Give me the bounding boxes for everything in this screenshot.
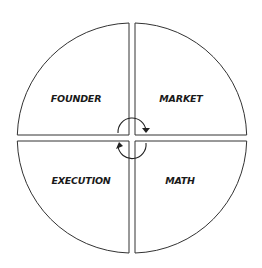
- quadrant-top-left: [17, 23, 129, 135]
- cycle-arrows-icon: [116, 118, 150, 159]
- quadrant-bottom-left: [17, 141, 129, 253]
- diagram-canvas: FOUNDER MARKET EXECUTION MATH: [0, 0, 262, 268]
- label-math: MATH: [165, 175, 195, 186]
- label-execution: EXECUTION: [51, 175, 110, 186]
- label-market: MARKET: [159, 93, 204, 104]
- quadrant-top-right: [135, 23, 247, 135]
- label-founder: FOUNDER: [51, 93, 102, 104]
- quadrant-diagram: FOUNDER MARKET EXECUTION MATH: [0, 0, 262, 268]
- quadrant-bottom-right: [135, 141, 247, 253]
